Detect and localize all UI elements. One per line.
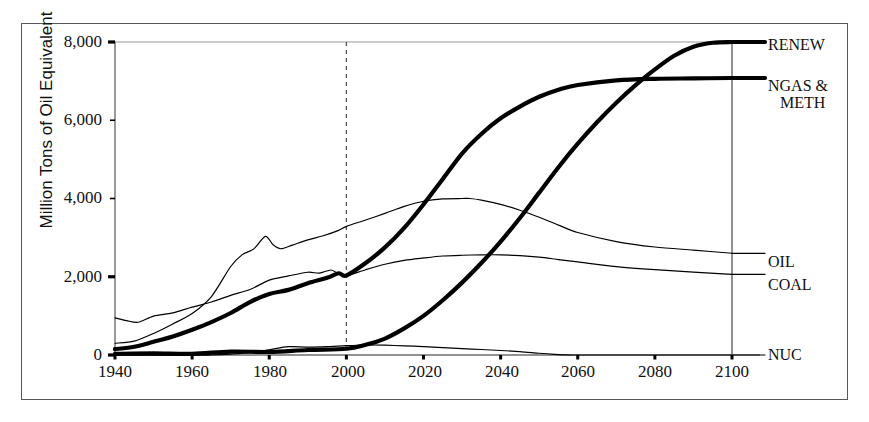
legend-text: NUC — [768, 346, 802, 363]
legend-text: COAL — [768, 276, 812, 293]
legend-label-nuc: NUC — [768, 347, 802, 364]
legend-text: RENEW — [768, 36, 825, 53]
chart-root: Million Tons of Oil Equivalent 8,000 6,0… — [0, 0, 869, 422]
legend-label-coal: COAL — [768, 277, 812, 294]
legend-label-oil: OIL — [768, 254, 795, 271]
legend-text: NGAS & — [768, 78, 828, 95]
legend-label-ngas-meth: NGAS & METH — [768, 78, 828, 112]
legend-label-renew: RENEW — [768, 37, 825, 54]
series-line-coal — [115, 255, 732, 323]
series-line-ngas-meth — [115, 78, 732, 349]
legend-text-line2: METH — [768, 95, 828, 112]
legend-text: OIL — [768, 253, 795, 270]
chart-plot-area — [0, 0, 869, 422]
series-line-renew — [115, 42, 732, 354]
